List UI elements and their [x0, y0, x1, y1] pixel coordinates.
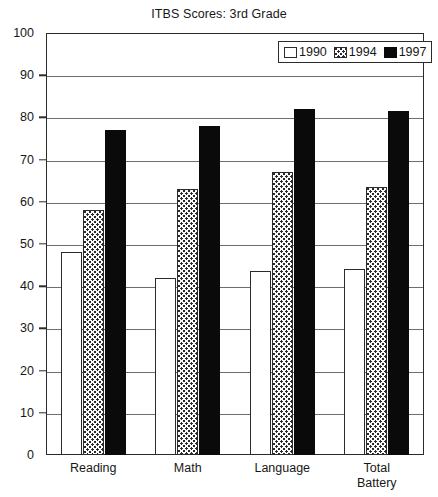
y-tick-label: 20: [20, 364, 34, 378]
legend-label: 1997: [399, 45, 427, 59]
y-axis: 0102030405060708090100: [0, 33, 46, 455]
y-tick-mark: [39, 74, 46, 75]
y-tick-label: 70: [20, 153, 34, 167]
bar-total-battery-1997[interactable]: [388, 111, 409, 455]
y-tick-mark: [39, 285, 46, 286]
y-tick-label: 100: [13, 26, 34, 40]
y-tick-label: 0: [27, 448, 34, 462]
bar-math-1997[interactable]: [199, 126, 220, 455]
bar-language-1990[interactable]: [250, 271, 271, 455]
bar-total-battery-1990[interactable]: [344, 269, 365, 455]
y-tick-label: 30: [20, 321, 34, 335]
bar-math-1990[interactable]: [155, 278, 176, 455]
bar-reading-1997[interactable]: [105, 130, 126, 455]
gridline: [47, 76, 423, 77]
x-group-label: Reading: [70, 461, 117, 476]
itbs-scores-bar-chart: ITBS Scores: 3rd Grade 01020304050607080…: [0, 0, 438, 497]
y-tick-label: 50: [20, 237, 34, 251]
swatch-dotted-icon: [334, 47, 347, 58]
x-group-label: Total Battery: [357, 461, 397, 490]
gridline: [47, 161, 423, 162]
legend-label: 1990: [299, 45, 327, 59]
y-tick-label: 80: [20, 110, 34, 124]
bar-language-1997[interactable]: [294, 109, 315, 455]
legend-label: 1994: [349, 45, 377, 59]
x-axis: ReadingMathLanguageTotal Battery: [46, 455, 424, 497]
x-group-label: Language: [254, 461, 310, 476]
bar-language-1994[interactable]: [272, 172, 293, 455]
y-tick-mark: [39, 328, 46, 329]
legend-entry-1997[interactable]: 1997: [384, 45, 427, 59]
y-tick-mark: [39, 117, 46, 118]
swatch-black-icon: [384, 47, 397, 58]
bar-total-battery-1994[interactable]: [366, 187, 387, 455]
x-group-label: Math: [174, 461, 202, 476]
gridline: [47, 118, 423, 119]
bar-reading-1990[interactable]: [61, 252, 82, 455]
legend-entry-1994[interactable]: 1994: [334, 45, 377, 59]
y-tick-label: 10: [20, 406, 34, 420]
y-tick-mark: [39, 412, 46, 413]
y-tick-mark: [39, 159, 46, 160]
y-tick-label: 40: [20, 279, 34, 293]
y-tick-label: 60: [20, 195, 34, 209]
chart-legend: 199019941997: [278, 41, 432, 63]
y-tick-mark: [39, 370, 46, 371]
legend-entry-1990[interactable]: 1990: [284, 45, 327, 59]
bar-reading-1994[interactable]: [83, 210, 104, 455]
y-tick-mark: [39, 243, 46, 244]
swatch-white-icon: [284, 47, 297, 58]
chart-title: ITBS Scores: 3rd Grade: [0, 7, 438, 21]
bar-math-1994[interactable]: [177, 189, 198, 455]
y-tick-label: 90: [20, 68, 34, 82]
y-tick-mark: [39, 201, 46, 202]
